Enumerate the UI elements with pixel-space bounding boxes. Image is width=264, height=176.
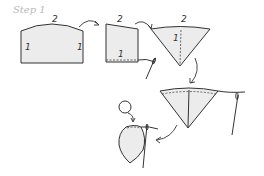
arrow-step-3 xyxy=(191,58,197,83)
label-top-edge-2: 2 xyxy=(117,14,123,24)
sewing-diagram: 2 1 1 2 1 2 1 xyxy=(0,0,264,176)
needle-1 xyxy=(146,58,155,79)
label-cone-top: 2 xyxy=(181,14,187,24)
label-right-edge: 1 xyxy=(77,42,83,52)
fabric-panel-flat: 2 1 1 xyxy=(21,14,83,63)
label-top-edge: 2 xyxy=(52,14,58,24)
needle-2 xyxy=(232,95,238,135)
thread-3 xyxy=(141,127,158,129)
label-cone-center: 1 xyxy=(173,33,179,43)
fabric-cone-top: 2 1 xyxy=(151,14,210,66)
arrow-step-2 xyxy=(135,22,151,28)
label-bottom-edge-2: 1 xyxy=(118,49,124,59)
label-left-edge: 1 xyxy=(25,42,31,52)
thread-2 xyxy=(218,91,245,92)
fabric-loop xyxy=(119,101,135,122)
fabric-cone-sewn xyxy=(160,88,245,135)
fabric-panel-folded: 2 1 xyxy=(106,14,156,79)
fabric-leaf-shape xyxy=(119,124,158,168)
